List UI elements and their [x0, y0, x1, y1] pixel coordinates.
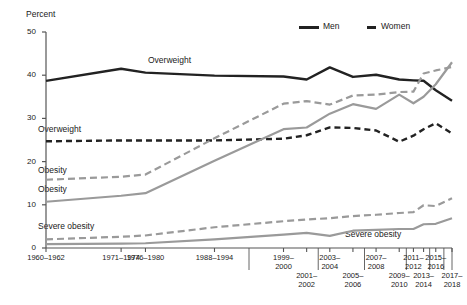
- x-axis-tick-top-6: 2007– 2008: [355, 254, 397, 271]
- series-line-3: [46, 67, 452, 180]
- series-line-5: [46, 198, 452, 239]
- series-line-1: [46, 123, 452, 142]
- y-axis-tick-50: 50: [14, 27, 36, 36]
- x-axis-tick-bottom-0: 2001– 2002: [286, 272, 328, 289]
- series-line-2: [46, 62, 452, 202]
- x-axis-tick-bottom-1: 2005– 2006: [332, 272, 374, 289]
- x-axis-tick-top-5: 2003– 2004: [309, 254, 351, 271]
- y-axis-tick-30: 30: [14, 113, 36, 122]
- x-axis-tick-top-3: 1988–1994: [193, 254, 235, 263]
- y-axis-tick-20: 20: [14, 157, 36, 166]
- y-axis-tick-40: 40: [14, 70, 36, 79]
- x-axis-tick-top-0: 1960–1962: [25, 254, 67, 263]
- y-axis-tick-0: 0: [14, 243, 36, 252]
- x-axis-tick-top-8: 2015– 2016: [415, 254, 457, 271]
- y-axis-tick-10: 10: [14, 200, 36, 209]
- series-line-0: [46, 67, 452, 100]
- series-line-4: [46, 218, 452, 244]
- x-axis-tick-bottom-4: 2017– 2018: [431, 272, 467, 289]
- x-axis-tick-top-2: 1976–1980: [124, 254, 166, 263]
- x-axis-tick-top-4: 1999– 2000: [263, 254, 305, 271]
